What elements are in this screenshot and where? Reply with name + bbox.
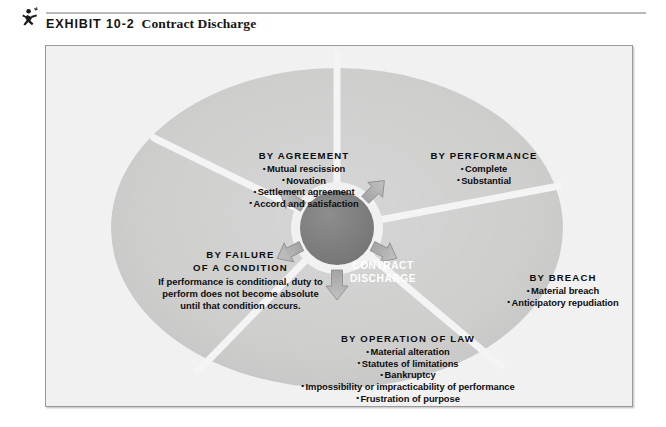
running-figure-icon [20,6,42,32]
wedge-by-agreement-item-2: •Settlement agreement [209,186,399,198]
bullet-icon: • [380,370,383,379]
wedge-by-agreement-item-3: •Accord and satisfaction [209,198,399,210]
header-rule [46,12,646,14]
wedge-by-agreement: BY AGREEMENT •Mutual rescission •Novatio… [209,150,399,210]
bullet-icon: • [356,393,359,402]
wedge-by-breach-item-1: •Anticipatory repudiation [478,297,648,309]
wedge-by-operation-title: BY OPERATION OF LAW [268,333,548,345]
wedge-by-performance-title: BY PERFORMANCE [408,150,560,162]
wedge-by-operation-of-law: BY OPERATION OF LAW •Material alteration… [268,333,548,404]
bullet-icon: • [527,286,530,295]
bullet-icon: • [263,164,266,173]
wedge-by-failure-title-line1: BY FAILURE [158,249,323,261]
exhibit-title: Contract Discharge [142,16,257,31]
wedge-by-operation-item-0: •Material alteration [268,346,548,358]
wedge-by-breach-item-0: •Material breach [478,285,648,297]
wedge-by-performance-item-0: •Complete [408,163,560,175]
bullet-icon: • [282,175,285,184]
wedge-by-operation-item-4: •Frustration of purpose [268,393,548,405]
bullet-icon: • [357,358,360,367]
wedge-by-operation-item-1: •Statutes of limitations [268,358,548,370]
bullet-icon: • [301,381,304,390]
wedge-by-breach-title: BY BREACH [478,272,648,284]
wedge-by-agreement-title: BY AGREEMENT [209,150,399,162]
bullet-icon: • [249,198,252,207]
exhibit-number: EXHIBIT 10-2 [46,17,135,31]
wedge-by-performance-item-1: •Substantial [408,175,560,187]
wedge-by-operation-item-3: •Impossibility or impracticability of pe… [268,381,548,393]
wedge-by-operation-item-2: •Bankruptcy [268,369,548,381]
bullet-icon: • [253,187,256,196]
wedge-by-agreement-item-0: •Mutual rescission [209,163,399,175]
wedge-by-failure-of-a-condition: BY FAILURE OF A CONDITION If performance… [158,249,323,312]
wedge-by-agreement-item-1: •Novation [209,175,399,187]
exhibit-header: EXHIBIT 10-2Contract Discharge [0,0,666,44]
bullet-icon: • [457,175,460,184]
wedge-by-failure-paragraph: If performance is conditional, duty to p… [158,276,323,313]
bullet-icon: • [366,347,369,356]
page-title: EXHIBIT 10-2Contract Discharge [46,16,256,32]
exhibit-figure-frame: BY AGREEMENT •Mutual rescission •Novatio… [45,45,633,407]
bullet-icon: • [507,297,510,306]
bullet-icon: • [461,164,464,173]
wedge-by-performance: BY PERFORMANCE •Complete •Substantial [408,150,560,186]
wedge-by-failure-title-line2: OF A CONDITION [158,262,323,274]
wedge-by-breach: BY BREACH •Material breach •Anticipatory… [478,272,648,308]
